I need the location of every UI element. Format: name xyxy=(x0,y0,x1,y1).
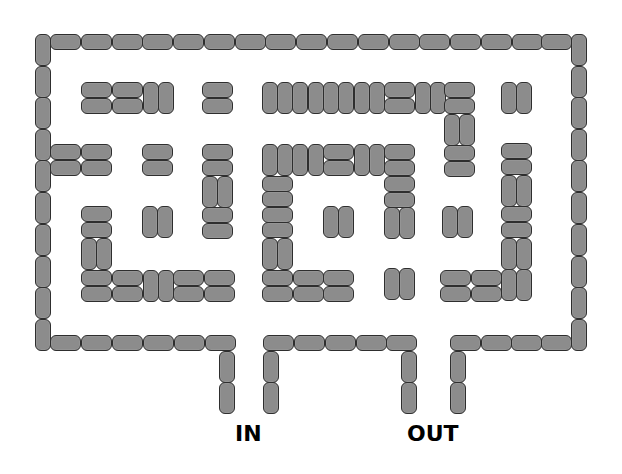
maze-brick-outer-top-wall xyxy=(389,34,420,50)
maze-brick-interior xyxy=(516,238,532,270)
maze-brick-interior xyxy=(501,222,532,238)
maze-brick-interior xyxy=(444,98,475,114)
maze-brick-entrance-stubs xyxy=(219,351,235,383)
maze-brick-interior xyxy=(277,82,293,114)
maze-brick-interior xyxy=(384,98,415,114)
maze-brick-outer-bottom-wall xyxy=(143,335,174,351)
maze-brick-outer-right-wall xyxy=(571,256,587,288)
maze-brick-outer-top-wall xyxy=(142,34,173,50)
maze-brick-outer-top-wall xyxy=(419,34,450,50)
maze-brick-interior xyxy=(415,82,431,114)
maze-brick-interior xyxy=(457,206,473,238)
maze-brick-interior xyxy=(202,207,233,223)
maze-brick-interior xyxy=(202,223,233,239)
maze-brick-interior xyxy=(323,206,339,238)
maze-brick-interior xyxy=(501,82,517,114)
maze-brick-interior xyxy=(142,160,173,176)
maze-brick-interior xyxy=(323,160,354,176)
maze-brick-outer-top-wall xyxy=(481,34,512,50)
maze-brick-interior xyxy=(81,270,112,286)
maze-brick-outer-right-wall xyxy=(571,66,587,98)
maze-brick-outer-top-wall xyxy=(358,34,389,50)
maze-brick-interior xyxy=(308,82,324,114)
maze-brick-outer-right-wall xyxy=(571,192,587,224)
maze-brick-interior xyxy=(354,82,370,114)
maze-brick-interior xyxy=(384,176,415,192)
maze-brick-outer-bottom-wall xyxy=(81,335,112,351)
maze-brick-interior xyxy=(202,144,233,160)
maze-brick-outer-top-wall xyxy=(512,34,543,50)
maze-brick-interior xyxy=(292,82,308,114)
maze-brick-interior xyxy=(157,206,173,238)
maze-brick-interior xyxy=(501,175,517,207)
maze-brick-interior xyxy=(217,176,233,208)
maze-brick-interior xyxy=(112,270,143,286)
maze-brick-interior xyxy=(158,82,174,114)
maze-brick-outer-left-wall xyxy=(35,34,51,66)
maze-brick-outer-right-wall xyxy=(571,129,587,161)
maze-brick-interior xyxy=(440,270,471,286)
maze-brick-interior xyxy=(399,207,415,239)
maze-brick-interior xyxy=(142,206,158,238)
maze-brick-interior xyxy=(471,286,502,302)
maze-brick-interior xyxy=(501,206,532,222)
maze-brick-interior xyxy=(173,286,204,302)
maze-brick-interior xyxy=(81,82,112,98)
maze-brick-interior xyxy=(323,270,354,286)
maze-brick-interior xyxy=(81,222,112,238)
maze-brick-interior xyxy=(142,144,173,160)
maze-brick-interior xyxy=(501,269,517,301)
maze-brick-outer-left-wall xyxy=(35,287,51,319)
maze-brick-interior xyxy=(384,82,415,98)
maze-brick-interior xyxy=(143,82,159,114)
maze-brick-interior xyxy=(50,160,81,176)
maze-brick-interior xyxy=(323,82,339,114)
maze-brick-outer-top-wall xyxy=(296,34,327,50)
maze-brick-interior xyxy=(293,270,324,286)
maze-brick-outer-right-wall xyxy=(571,224,587,256)
maze-brick-outer-right-wall xyxy=(571,287,587,319)
maze-brick-interior xyxy=(293,286,324,302)
maze-brick-outer-left-wall xyxy=(35,256,51,288)
maze-brick-outer-bottom-wall xyxy=(481,335,512,351)
maze-brick-outer-top-wall xyxy=(541,34,572,50)
maze-brick-outer-bottom-wall xyxy=(294,335,325,351)
maze-brick-outer-right-wall xyxy=(571,319,587,351)
maze-brick-exit-stubs xyxy=(401,382,417,414)
maze-brick-interior xyxy=(81,238,97,270)
maze-brick-interior xyxy=(50,144,81,160)
maze-brick-entrance-stubs xyxy=(263,382,279,414)
maze-brick-interior xyxy=(262,207,293,223)
maze-brick-interior xyxy=(158,270,174,302)
maze-brick-interior xyxy=(444,145,475,161)
maze-brick-interior xyxy=(323,144,354,160)
maze-brick-outer-bottom-wall xyxy=(450,335,481,351)
maze-brick-interior xyxy=(384,192,415,208)
exit-label: OUT xyxy=(407,423,459,445)
maze-brick-interior xyxy=(338,82,354,114)
maze-brick-outer-left-wall xyxy=(35,192,51,224)
maze-brick-interior xyxy=(384,207,400,239)
maze-brick-outer-right-wall xyxy=(571,97,587,129)
maze-brick-interior xyxy=(501,159,532,175)
maze-brick-interior xyxy=(308,144,324,176)
maze-brick-outer-right-wall xyxy=(571,34,587,66)
maze-brick-interior xyxy=(384,268,400,300)
maze-brick-interior xyxy=(501,143,532,159)
maze-brick-interior xyxy=(112,286,143,302)
maze-brick-entrance-stubs xyxy=(263,351,279,383)
maze-brick-interior xyxy=(262,286,293,302)
maze-brick-interior xyxy=(143,270,159,302)
maze-brick-outer-top-wall xyxy=(235,34,266,50)
maze-brick-outer-bottom-wall xyxy=(205,335,236,351)
maze-brick-interior xyxy=(202,82,233,98)
maze-brick-exit-stubs xyxy=(450,382,466,414)
maze-brick-interior xyxy=(262,144,278,176)
maze-brick-interior xyxy=(262,270,293,286)
maze-brick-outer-top-wall xyxy=(204,34,235,50)
maze-brick-interior xyxy=(292,144,308,176)
maze-brick-interior xyxy=(384,144,415,160)
maze-brick-interior xyxy=(112,82,143,98)
maze-brick-interior xyxy=(204,270,235,286)
maze-brick-exit-stubs xyxy=(401,351,417,383)
